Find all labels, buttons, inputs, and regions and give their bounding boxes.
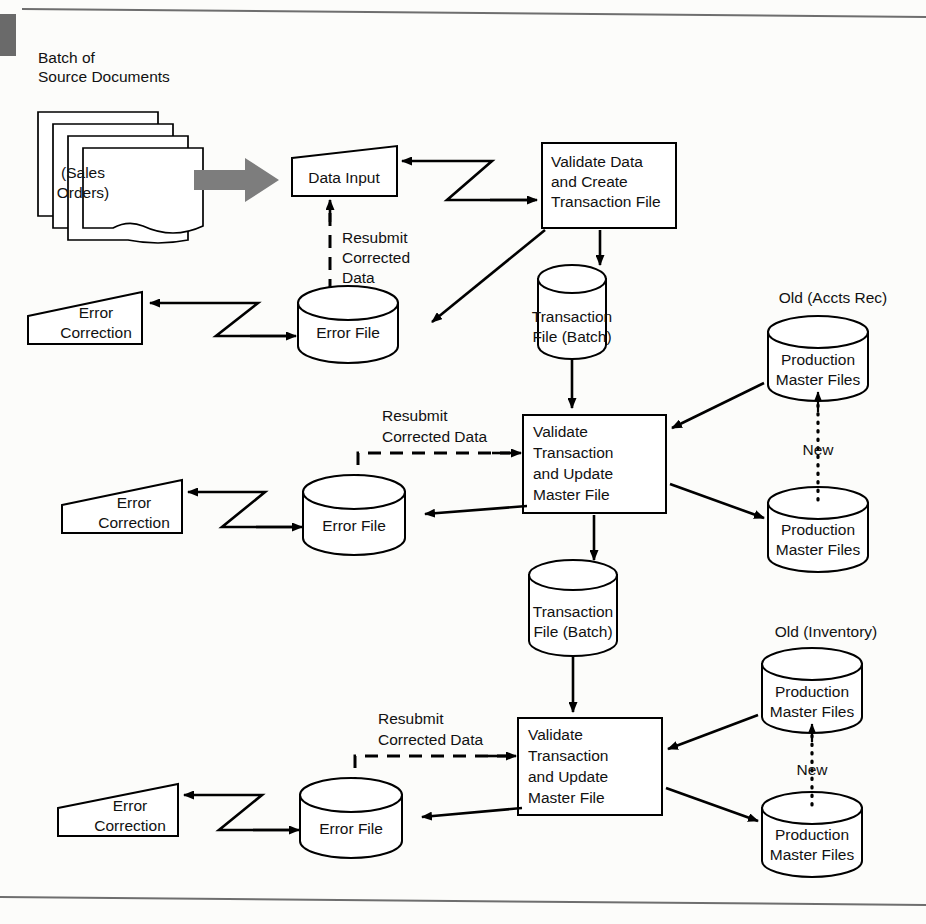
new-label-3: New — [796, 761, 828, 778]
new-master-2-line1: Production — [781, 521, 855, 538]
data-input-label: Data Input — [308, 169, 380, 186]
validate2-line1: Validate — [533, 423, 588, 440]
validate3-line2: Transaction — [528, 747, 608, 764]
resubmit-stage1-line1: Resubmit — [342, 229, 408, 246]
error-file-cylinder-3 — [300, 778, 402, 858]
resubmit-stage2-line1: Resubmit — [382, 407, 448, 424]
new-label-2: New — [802, 441, 834, 458]
error-file-3-label: Error File — [319, 820, 383, 837]
source-caption-line2: Source Documents — [38, 68, 170, 85]
left-gray-bar — [0, 14, 16, 56]
old-master-caption-2: Old (Accts Rec) — [779, 289, 888, 306]
validate3-line1: Validate — [528, 726, 583, 743]
resubmit-stage3-line2: Corrected Data — [378, 731, 483, 748]
old-master-3-line2: Master Files — [770, 703, 855, 720]
validate3-line4: Master File — [528, 789, 605, 806]
validate2-line3: and Update — [533, 465, 613, 482]
error-correction-2-line2: Correction — [98, 514, 170, 531]
resubmit-stage1-line2: Corrected — [342, 249, 410, 266]
error-correction-1-line2: Correction — [60, 324, 132, 341]
error-file-2-label: Error File — [322, 517, 386, 534]
new-master-3-line2: Master Files — [770, 846, 855, 863]
transaction-file-2-line1: Transaction — [533, 603, 613, 620]
resubmit-stage3-line1: Resubmit — [378, 710, 444, 727]
source-doc-label-line2: Orders) — [57, 184, 110, 201]
old-master-2-line2: Master Files — [776, 371, 861, 388]
error-correction-3-line2: Correction — [94, 817, 166, 834]
validate2-line4: Master File — [533, 486, 610, 503]
resubmit-stage2-line2: Corrected Data — [382, 428, 487, 445]
validate3-line3: and Update — [528, 768, 608, 785]
new-master-2-line2: Master Files — [776, 541, 861, 558]
validate-create-line2: and Create — [551, 173, 628, 190]
error-file-1-label: Error File — [316, 324, 380, 341]
old-master-3-line1: Production — [775, 683, 849, 700]
new-master-3-line1: Production — [775, 826, 849, 843]
transaction-file-1-line1: Transaction — [532, 308, 612, 325]
resubmit-stage1-line3: Data — [342, 269, 375, 286]
source-doc-label-line1: (Sales — [61, 164, 105, 181]
old-master-2-line1: Production — [781, 351, 855, 368]
error-correction-1-line1: Error — [79, 304, 113, 321]
transaction-file-2-line2: File (Batch) — [533, 623, 612, 640]
source-caption-line1: Batch of — [38, 49, 96, 66]
old-master-caption-3: Old (Inventory) — [775, 623, 878, 640]
validate-create-line1: Validate Data — [551, 153, 643, 170]
error-correction-3-line1: Error — [113, 797, 147, 814]
error-correction-2-line1: Error — [117, 494, 151, 511]
validate2-line2: Transaction — [533, 444, 613, 461]
validate-create-line3: Transaction File — [551, 193, 661, 210]
error-file-cylinder-2 — [303, 475, 405, 555]
diagram-canvas: (Sales Orders) Batch of Source Documents… — [0, 0, 926, 924]
transaction-file-1-line2: File (Batch) — [532, 328, 611, 345]
